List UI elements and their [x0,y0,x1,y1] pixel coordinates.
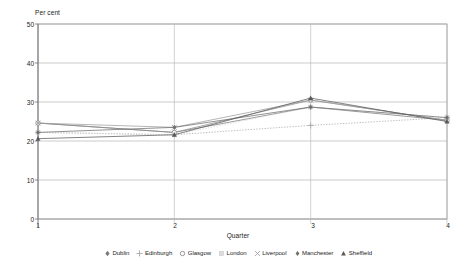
series-dublin [36,104,449,135]
legend-marker-glyph [105,251,109,257]
legend-item-sheffield[interactable]: Sheffield [340,250,372,257]
legend-label: Manchester [302,250,333,257]
legend-marker-square-light-icon [218,250,225,257]
legend-label: Edinburgh [145,250,172,257]
legend-item-glasgow[interactable]: Glasgow [179,250,211,257]
series-edinburgh [35,115,450,138]
legend-label: Glasgow [188,250,211,257]
plot-frame [38,24,447,219]
chart-legend: DublinEdinburghGlasgowLondonLiverpoolMan… [0,250,476,257]
legend-marker-glyph [341,251,346,256]
legend-marker-glyph [181,251,185,255]
series-london [36,105,449,137]
legend-marker-glyph [295,251,299,256]
legend-item-liverpool[interactable]: Liverpool [254,250,287,257]
legend-marker-cross-icon [254,250,261,257]
series-line-sheffield [38,98,447,139]
legend-item-manchester[interactable]: Manchester [294,250,334,257]
legend-label: Sheffield [349,250,372,257]
legend-marker-diamond-small-icon [294,250,301,257]
series-line-liverpool [38,100,447,127]
legend-marker-triangle-icon [340,250,347,257]
legend-label: Liverpool [262,250,286,257]
legend-marker-circle-open-icon [179,250,186,257]
legend-item-edinburgh[interactable]: Edinburgh [136,250,172,257]
legend-marker-diamond-filled-icon [104,250,111,257]
legend-marker-glyph [220,252,224,256]
plot-area [0,0,476,266]
series-liverpool [36,98,450,130]
legend-marker-plus-icon [136,250,143,257]
legend-label: Dublin [112,250,129,257]
legend-item-dublin[interactable]: Dublin [104,250,130,257]
series-line-edinburgh [38,118,447,135]
legend-label: London [227,250,247,257]
legend-item-london[interactable]: London [218,250,247,257]
line-chart: Per cent Quarter 50 40 30 20 10 0 1 2 3 … [0,0,476,266]
